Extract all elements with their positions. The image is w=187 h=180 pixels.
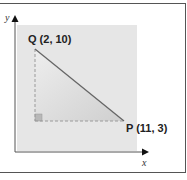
y-axis-label: y [5, 12, 9, 23]
y-axis-arrow-icon [12, 15, 19, 22]
x-axis-label: x [142, 157, 146, 168]
coordinate-diagram [0, 0, 187, 180]
x-axis-arrow-icon [142, 149, 149, 156]
right-angle-marker [35, 114, 42, 121]
point-q-label: Q (2, 10) [28, 33, 71, 45]
point-p-label: P (11, 3) [126, 122, 167, 134]
